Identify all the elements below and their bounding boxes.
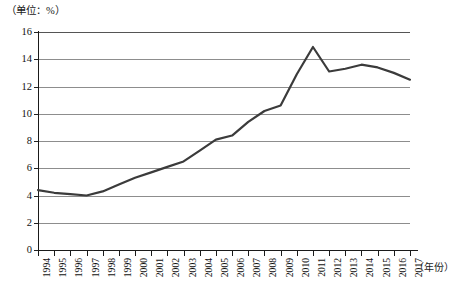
y-tick-label: 8 — [10, 136, 32, 146]
y-tick-label: 14 — [10, 54, 32, 64]
x-tick-label: 2010 — [301, 258, 311, 277]
y-tick-label: 4 — [10, 191, 32, 201]
x-tick-mark — [70, 251, 71, 256]
x-tick-label: 2007 — [252, 258, 262, 277]
x-tick-label: 2005 — [220, 258, 230, 277]
x-tick-label: 2001 — [155, 258, 165, 277]
x-tick-label: 2015 — [382, 258, 392, 277]
x-tick-label: 2006 — [236, 258, 246, 277]
x-tick-mark — [281, 251, 282, 256]
x-tick-mark — [38, 251, 39, 256]
x-tick-label: 2013 — [349, 258, 359, 277]
x-tick-label: 2008 — [268, 258, 278, 277]
x-tick-mark — [54, 251, 55, 256]
x-tick-mark — [119, 251, 120, 256]
gridline — [38, 87, 410, 88]
gridline — [38, 32, 410, 33]
x-tick-label: 2012 — [333, 258, 343, 277]
x-tick-label: 1995 — [58, 258, 68, 277]
x-tick-mark — [297, 251, 298, 256]
x-tick-mark — [87, 251, 88, 256]
x-tick-mark — [151, 251, 152, 256]
gridline — [38, 141, 410, 142]
y-tick-mark — [34, 196, 38, 197]
x-tick-mark — [361, 251, 362, 256]
line-chart: （单位：%） 0246810121416 1994199519961997199… — [0, 0, 450, 296]
unit-label: （单位：%） — [6, 2, 65, 17]
gridline — [38, 168, 410, 169]
y-tick-mark — [34, 168, 38, 169]
x-tick-mark — [410, 251, 411, 256]
x-tick-mark — [216, 251, 217, 256]
x-tick-mark — [135, 251, 136, 256]
x-tick-label: 2011 — [317, 258, 327, 277]
gridline — [38, 59, 410, 60]
y-tick-label: 12 — [10, 82, 32, 92]
x-tick-label: 1999 — [123, 258, 133, 277]
y-tick-label: 16 — [10, 27, 32, 37]
y-tick-label: 10 — [10, 109, 32, 119]
x-tick-label: 1994 — [42, 258, 52, 277]
x-tick-label: 2009 — [285, 258, 295, 277]
x-tick-mark — [264, 251, 265, 256]
y-tick-label: 0 — [10, 245, 32, 255]
x-tick-mark — [184, 251, 185, 256]
x-tick-label: 1997 — [91, 258, 101, 277]
x-tick-label: 2014 — [365, 258, 375, 277]
x-tick-mark — [103, 251, 104, 256]
x-tick-mark — [345, 251, 346, 256]
x-tick-label: 2002 — [171, 258, 181, 277]
y-tick-mark — [34, 223, 38, 224]
y-tick-mark — [34, 141, 38, 142]
x-tick-mark — [313, 251, 314, 256]
plot-area — [38, 32, 410, 250]
x-tick-mark — [248, 251, 249, 256]
x-tick-label: 2004 — [204, 258, 214, 277]
x-tick-label: 2000 — [139, 258, 149, 277]
y-tick-mark — [34, 32, 38, 33]
gridline — [38, 223, 410, 224]
x-tick-label: 2016 — [398, 258, 408, 277]
x-tick-mark — [329, 251, 330, 256]
y-tick-mark — [34, 114, 38, 115]
y-tick-label: 6 — [10, 163, 32, 173]
x-tick-mark — [394, 251, 395, 256]
gridline — [38, 196, 410, 197]
y-tick-mark — [34, 87, 38, 88]
x-tick-mark — [232, 251, 233, 256]
y-tick-label: 2 — [10, 218, 32, 228]
x-tick-label: 1996 — [74, 258, 84, 277]
y-tick-mark — [34, 59, 38, 60]
x-tick-label: 2003 — [188, 258, 198, 277]
y-axis-line — [38, 31, 39, 251]
x-tick-mark — [167, 251, 168, 256]
gridline — [38, 114, 410, 115]
x-tick-label: 1998 — [107, 258, 117, 277]
x-tick-mark — [378, 251, 379, 256]
x-axis-title: （年份） — [414, 259, 450, 274]
x-tick-mark — [200, 251, 201, 256]
